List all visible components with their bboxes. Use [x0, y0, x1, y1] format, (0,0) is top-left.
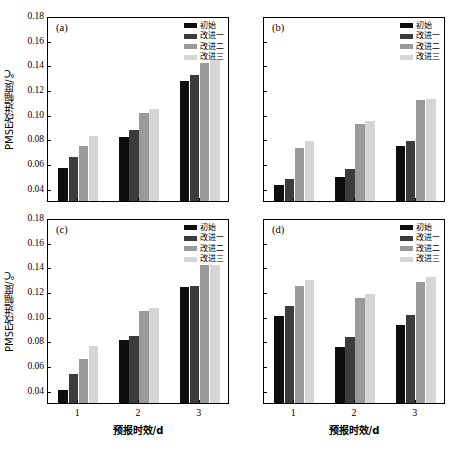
legend-item: 改进三 — [400, 255, 440, 264]
x-tick-mark — [138, 198, 139, 202]
y-tick-mark — [47, 190, 51, 191]
legend-label: 改进二 — [416, 244, 440, 254]
bar — [416, 100, 426, 201]
bar — [285, 306, 295, 403]
legend-label: 初始 — [200, 223, 216, 233]
legend-label: 初始 — [416, 21, 432, 31]
x-tick-mark — [77, 198, 78, 202]
x-tick-mark — [77, 400, 78, 404]
legend-label: 改进一 — [200, 31, 224, 41]
chart-panel-a: (a)0.180.160.140.120.100.080.060.04初始改进一… — [47, 17, 229, 202]
legend-swatch — [400, 236, 413, 241]
legend-swatch — [184, 34, 197, 39]
legend-item: 改进三 — [184, 255, 224, 264]
x-tick-mark — [354, 400, 355, 404]
y-tick-label: 0.18 — [13, 11, 44, 21]
legend-item: 改进二 — [184, 244, 224, 253]
legend-swatch — [184, 257, 197, 262]
y-tick-label: 0.12 — [13, 85, 44, 95]
legend-swatch — [184, 55, 197, 60]
bar — [406, 315, 416, 403]
y-tick-label: 0.18 — [13, 213, 44, 223]
bar — [89, 346, 99, 403]
y-tick-mark — [47, 17, 51, 18]
bar — [149, 308, 159, 403]
y-tick-label: 0.12 — [13, 287, 44, 297]
legend-swatch — [400, 225, 413, 230]
x-tick-label: 3 — [184, 407, 214, 418]
legend-swatch — [184, 44, 197, 49]
bar — [426, 99, 436, 201]
y-axis-title: PMSE改进幅度/℃ — [2, 227, 17, 396]
legend-swatch — [400, 44, 413, 49]
legend-item: 改进一 — [184, 234, 224, 243]
legend-item: 初始 — [400, 21, 440, 30]
legend-label: 改进二 — [416, 42, 440, 52]
y-tick-mark — [47, 91, 51, 92]
legend-item: 初始 — [400, 223, 440, 232]
legend-swatch — [184, 236, 197, 241]
legend-item: 改进二 — [400, 42, 440, 51]
legend-item: 改进一 — [184, 32, 224, 41]
bar — [129, 130, 139, 201]
bar — [335, 177, 345, 201]
bar — [406, 141, 416, 201]
x-tick-label: 2 — [123, 407, 153, 418]
y-tick-mark — [47, 140, 51, 141]
y-tick-mark — [263, 91, 267, 92]
bar — [335, 347, 345, 403]
y-tick-mark — [263, 190, 267, 191]
legend-item: 改进三 — [400, 53, 440, 62]
x-tick-label: 3 — [400, 407, 430, 418]
legend-item: 改进三 — [184, 53, 224, 62]
bar — [305, 280, 315, 403]
legend-swatch — [184, 246, 197, 251]
bar — [200, 265, 210, 403]
legend-item: 初始 — [184, 21, 224, 30]
y-tick-mark — [47, 165, 51, 166]
bar — [210, 265, 220, 403]
y-tick-label: 0.16 — [13, 238, 44, 248]
y-tick-mark — [47, 367, 51, 368]
bar — [355, 298, 365, 403]
bar — [365, 121, 375, 201]
bar — [79, 146, 89, 201]
y-tick-mark — [263, 165, 267, 166]
legend: 初始改进一改进二改进三 — [184, 223, 224, 265]
panel-label: (d) — [272, 224, 284, 235]
panel-label: (c) — [56, 224, 68, 235]
panel-label: (b) — [272, 22, 284, 33]
legend-swatch — [184, 23, 197, 28]
y-tick-label: 0.10 — [13, 110, 44, 120]
x-tick-mark — [415, 400, 416, 404]
y-tick-mark — [263, 17, 267, 18]
y-tick-mark — [263, 66, 267, 67]
bar — [396, 146, 406, 202]
y-tick-mark — [47, 42, 51, 43]
bar — [355, 124, 365, 201]
legend-label: 初始 — [200, 21, 216, 31]
y-tick-mark — [263, 42, 267, 43]
x-axis-title: 预报时效/d — [263, 422, 445, 437]
legend-swatch — [184, 225, 197, 230]
y-tick-label: 0.14 — [13, 60, 44, 70]
bar — [129, 336, 139, 403]
y-tick-mark — [263, 244, 267, 245]
y-tick-mark — [47, 342, 51, 343]
legend: 初始改进一改进二改进三 — [184, 21, 224, 63]
bar — [295, 148, 305, 201]
bar — [69, 374, 79, 403]
bar — [345, 169, 355, 201]
legend-item: 初始 — [184, 223, 224, 232]
bar — [180, 287, 190, 403]
legend: 初始改进一改进二改进三 — [400, 21, 440, 63]
bar — [274, 316, 284, 403]
y-tick-mark — [263, 268, 267, 269]
bar — [139, 311, 149, 404]
x-tick-mark — [293, 400, 294, 404]
y-tick-label: 0.06 — [13, 159, 44, 169]
y-tick-mark — [47, 219, 51, 220]
y-tick-mark — [47, 293, 51, 294]
legend-label: 改进三 — [200, 52, 224, 62]
y-tick-label: 0.08 — [13, 336, 44, 346]
